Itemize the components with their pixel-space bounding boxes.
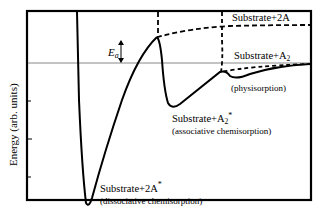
arrow-down-icon: [118, 58, 124, 63]
arrow-up-icon: [118, 40, 124, 45]
potential-energy-diagram: Ea Energy (arb. units) Substrate+2A Subs…: [0, 0, 319, 223]
dissociative-chemisorption-curve: [77, 12, 157, 205]
physisorption-label: (physisorption): [231, 83, 286, 93]
associative-chemisorption-curve: [157, 37, 310, 107]
dissociative-chemisorption-note: (dissociative chemisorption): [100, 196, 202, 206]
y-axis-label: Energy (arb. units): [7, 83, 20, 166]
substrate-a2-label: Substrate+A2: [234, 50, 291, 63]
activation-energy-label: Ea: [107, 46, 119, 60]
associative-chemisorption-label: Substrate+A2*: [172, 111, 232, 126]
associative-chemisorption-note: (associative chemisorption): [172, 126, 271, 136]
substrate-2a-label: Substrate+2A: [232, 12, 290, 23]
dissociative-chemisorption-label: Substrate+2A*: [100, 180, 162, 194]
